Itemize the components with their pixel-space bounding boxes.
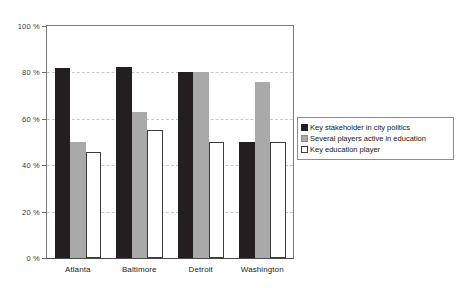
bar-chart: 100 %80 %60 %40 %20 %0 % AtlantaBaltimor… xyxy=(0,0,461,288)
bar-group xyxy=(55,26,102,258)
bar[interactable] xyxy=(270,142,286,258)
bar[interactable] xyxy=(116,67,132,258)
bar[interactable] xyxy=(178,72,194,258)
bar[interactable] xyxy=(147,130,163,258)
legend-label: Key education player xyxy=(310,145,380,155)
bar[interactable] xyxy=(132,112,148,258)
y-axis-tick-label: 80 % xyxy=(0,68,40,77)
legend-swatch-white-icon xyxy=(301,146,308,153)
bar-group xyxy=(239,26,286,258)
bar[interactable] xyxy=(255,82,271,258)
legend-swatch-gray-icon xyxy=(301,135,308,142)
bar[interactable] xyxy=(193,72,209,258)
chart-legend: Key stakeholder in city politics Several… xyxy=(297,117,454,160)
legend-item: Several players active in education xyxy=(301,133,449,144)
y-axis-tick-label: 0 % xyxy=(0,254,40,263)
legend-label: Key stakeholder in city politics xyxy=(310,123,410,133)
bar[interactable] xyxy=(55,68,71,258)
legend-item: Key stakeholder in city politics xyxy=(301,122,449,133)
x-axis-tick-label: Atlanta xyxy=(65,265,91,274)
x-axis-tick-label: Washington xyxy=(241,265,284,274)
bar-group xyxy=(178,26,225,258)
legend-label: Several players active in education xyxy=(310,134,426,144)
bar[interactable] xyxy=(239,142,255,258)
y-axis-tick-label: 100 % xyxy=(0,22,40,31)
bar[interactable] xyxy=(70,142,86,258)
y-axis-tick-label: 60 % xyxy=(0,114,40,123)
legend-item: Key education player xyxy=(301,144,449,155)
legend-swatch-dark-icon xyxy=(301,124,308,131)
bar[interactable] xyxy=(86,152,102,258)
bar-group xyxy=(116,26,163,258)
bar[interactable] xyxy=(209,142,225,258)
y-axis-tick-label: 20 % xyxy=(0,207,40,216)
y-axis-tick-label: 40 % xyxy=(0,161,40,170)
x-axis-tick-label: Detroit xyxy=(189,265,213,274)
bars-layer xyxy=(47,26,293,258)
x-axis-tick-label: Baltimore xyxy=(122,265,157,274)
